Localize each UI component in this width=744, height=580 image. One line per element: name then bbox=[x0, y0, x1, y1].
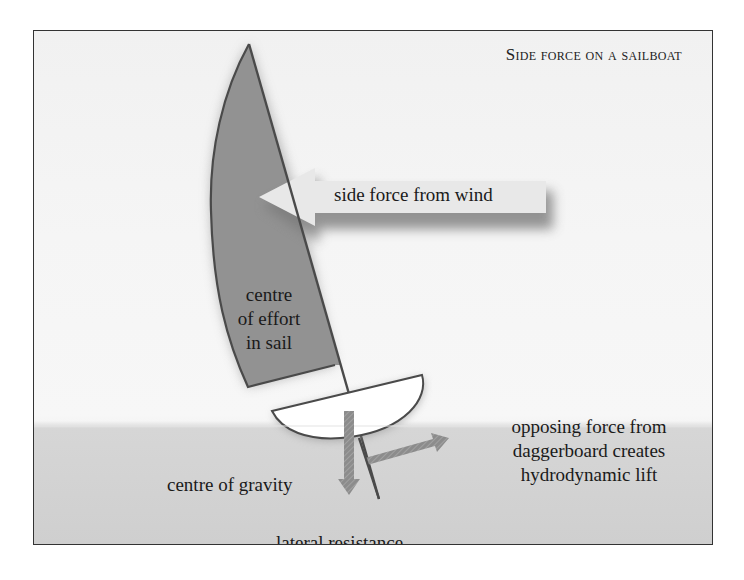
centre-of-effort-label: centre of effort in sail bbox=[234, 283, 304, 355]
diagram-frame: Side force on a sailboat side force from… bbox=[33, 30, 713, 545]
opposing-force-label: opposing force from daggerboard creates … bbox=[489, 415, 689, 487]
lift-arrow bbox=[365, 433, 449, 465]
side-force-label: side force from wind bbox=[334, 183, 544, 207]
diagram-title: Side force on a sailboat bbox=[506, 45, 682, 65]
centre-of-gravity-label: centre of gravity bbox=[167, 473, 337, 497]
lateral-resistance-label: lateral resistance bbox=[276, 531, 446, 545]
